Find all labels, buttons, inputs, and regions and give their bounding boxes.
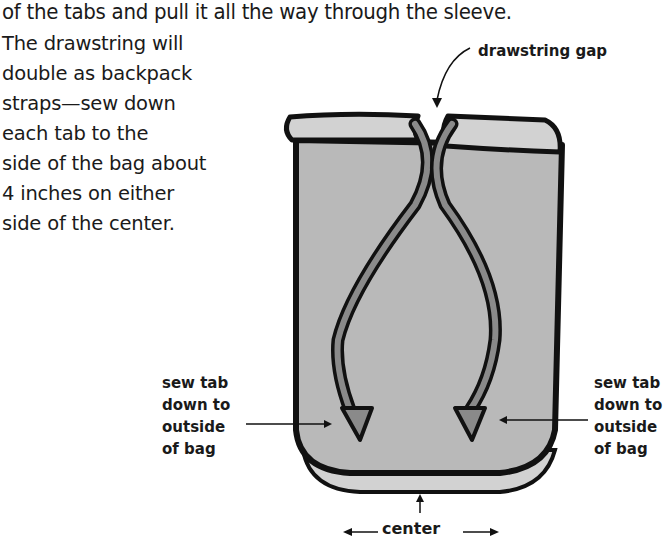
center-label: center bbox=[382, 518, 440, 540]
label-line: outside bbox=[162, 416, 230, 438]
sew-tab-label-right: sew tab down to outside of bag bbox=[594, 372, 662, 460]
label-line: down to bbox=[162, 394, 230, 416]
label-line: outside bbox=[594, 416, 662, 438]
drawstring-gap-label: drawstring gap bbox=[478, 40, 607, 62]
gap-arrow-icon bbox=[437, 48, 470, 100]
bag-illustration bbox=[0, 0, 668, 541]
sew-tab-label-left: sew tab down to outside of bag bbox=[162, 372, 230, 460]
label-line: sew tab bbox=[594, 372, 662, 394]
sleeve-left bbox=[286, 114, 418, 140]
label-line: down to bbox=[594, 394, 662, 416]
label-line: of bag bbox=[594, 438, 662, 460]
label-line: of bag bbox=[162, 438, 230, 460]
sleeve-right bbox=[443, 116, 560, 152]
label-line: sew tab bbox=[162, 372, 230, 394]
